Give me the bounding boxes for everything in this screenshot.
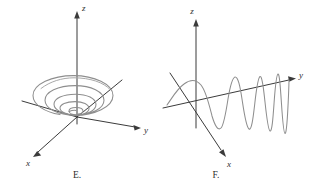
figure-e-canvas: z y x E. z y x F.: [0, 0, 309, 192]
figure-e-top-coil-back-arc: [41, 78, 110, 90]
figure-e-x-axis-arrowhead: [33, 151, 41, 157]
figure-f-x-label: x: [226, 159, 231, 169]
figure-e-x-label: x: [25, 158, 30, 168]
figure-f-caption: F.: [213, 170, 220, 180]
figure-e-y-axis: [77, 117, 135, 127]
figure-e-caption: E.: [73, 170, 81, 180]
figure-f-y-label: y: [298, 70, 303, 80]
figure-f-y-axis: [163, 80, 289, 108]
figure-f-group: z y x F.: [163, 6, 303, 180]
figure-f-x-axis-arrowhead: [219, 149, 226, 157]
figure-e-y-axis-back: [77, 80, 122, 117]
figure-f-z-label: z: [189, 6, 194, 16]
figure-e-z-axis-arrowhead: [74, 11, 80, 19]
figure-f-z-axis-arrowhead: [193, 19, 199, 27]
figure-e-z-label: z: [81, 3, 86, 13]
figure-e-spiral-tail: [69, 110, 76, 111]
figure-e-conical-helix-curve: [33, 76, 113, 116]
figure-e-group: z y x E.: [22, 3, 148, 180]
figure-e-x-axis: [38, 117, 77, 152]
figure-e-y-label: y: [143, 125, 148, 135]
figure-e-y-axis-arrowhead: [133, 125, 141, 131]
figure-f-chirp-wave-curve: [167, 74, 289, 134]
figure-board: z y x E. z y x F.: [0, 0, 309, 192]
